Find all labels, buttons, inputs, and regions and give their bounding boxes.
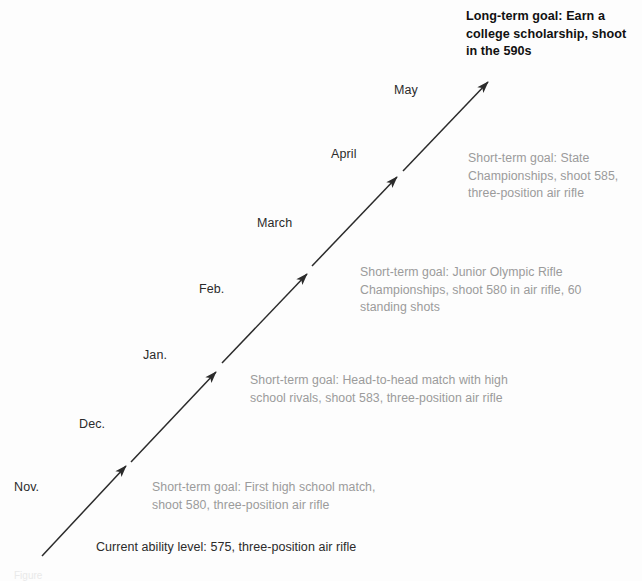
month-label-dec: Dec. <box>79 417 105 431</box>
month-label-april: April <box>331 147 357 161</box>
progress-arrow-3 <box>222 274 307 363</box>
short-term-goal-note-4: Short-term goal: State Championships, sh… <box>468 150 618 203</box>
month-label-march: March <box>257 216 292 230</box>
short-term-goal-note-2: Short-term goal: Head-to-head match with… <box>250 372 508 407</box>
progress-arrow-4 <box>312 177 397 266</box>
month-label-nov: Nov. <box>14 480 39 494</box>
goal-ladder-diagram: Nov.Dec.Jan.Feb.MarchAprilMay Short-term… <box>0 0 642 581</box>
progress-arrow-2 <box>131 372 216 462</box>
short-term-goal-note-3: Short-term goal: Junior Olympic Rifle Ch… <box>360 264 581 317</box>
month-label-feb: Feb. <box>199 282 224 296</box>
month-label-may: May <box>394 83 418 97</box>
month-label-jan: Jan. <box>143 348 167 362</box>
figure-caption: Figure <box>14 570 42 581</box>
current-ability-level-label: Current ability level: 575, three-positi… <box>96 540 356 554</box>
long-term-goal-label: Long-term goal: Earn a college scholarsh… <box>466 8 626 61</box>
short-term-goal-note-1: Short-term goal: First high school match… <box>152 479 375 514</box>
